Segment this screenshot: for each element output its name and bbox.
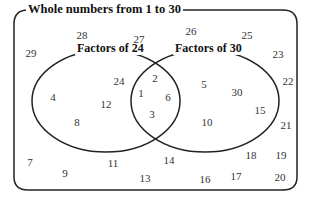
number-12: 12 [101,99,112,110]
number-13: 13 [140,173,151,184]
number-10: 10 [202,117,213,128]
number-2: 2 [152,73,158,84]
factors-of-30-label: Factors of 30 [173,42,244,55]
universal-set-border [14,10,297,190]
number-3: 3 [149,109,155,120]
number-30: 30 [232,87,243,98]
number-18: 18 [246,150,257,161]
factors-of-30-circle [131,50,279,152]
number-11: 11 [108,158,119,169]
number-25: 25 [242,30,253,41]
number-28: 28 [77,30,88,41]
number-15: 15 [255,105,266,116]
number-8: 8 [74,117,80,128]
venn-diagram-lines [0,0,310,203]
number-16: 16 [200,174,211,185]
number-24: 24 [114,76,125,87]
number-6: 6 [165,92,171,103]
number-29: 29 [26,48,37,59]
number-7: 7 [27,157,33,168]
number-17: 17 [231,171,242,182]
number-26: 26 [186,26,197,37]
number-19: 19 [276,150,287,161]
number-27: 27 [134,34,145,45]
number-22: 22 [283,76,294,87]
number-23: 23 [273,49,284,60]
number-1: 1 [138,88,144,99]
universal-set-label: Whole numbers from 1 to 30 [26,2,183,16]
number-5: 5 [201,79,207,90]
number-14: 14 [164,155,175,166]
number-20: 20 [275,172,286,183]
number-9: 9 [62,168,68,179]
number-4: 4 [50,92,56,103]
number-21: 21 [281,120,292,131]
